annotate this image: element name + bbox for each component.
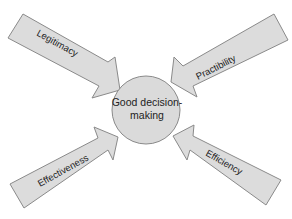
decision-diagram: Legitimacy Practibility Effectiveness Ef… [0,0,292,219]
center-label-line1: Good decision- [112,96,183,108]
arrow-effectiveness: Effectiveness [10,127,118,208]
arrow-legitimacy: Legitimacy [8,14,120,98]
arrow-efficiency: Efficiency [173,125,281,205]
center-node: Good decision- making [112,76,183,144]
arrow-practibility: Practibility [171,14,288,97]
center-label-line2: making [130,109,164,121]
